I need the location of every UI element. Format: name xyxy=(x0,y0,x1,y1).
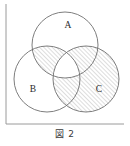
figure-caption: 図 2 xyxy=(0,128,130,140)
venn-diagram: A B C xyxy=(0,0,130,130)
figure-container: A B C 図 2 xyxy=(0,0,130,146)
label-set-B: B xyxy=(30,84,36,94)
label-set-C: C xyxy=(96,84,102,94)
label-set-A: A xyxy=(65,20,72,30)
